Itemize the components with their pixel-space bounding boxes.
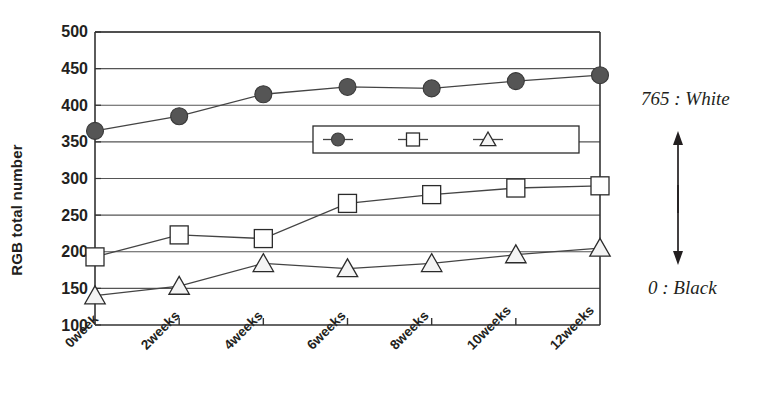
- data-point-marker: [169, 276, 189, 294]
- data-point-marker: [339, 194, 357, 212]
- data-point-marker: [423, 186, 441, 204]
- chart-figure: RGB total number 500 450 400 350 300 250…: [0, 0, 768, 413]
- data-point-marker: [170, 226, 188, 244]
- data-point-marker: [339, 78, 356, 95]
- up-arrow-head-icon: [673, 131, 683, 145]
- data-point-marker: [253, 254, 273, 272]
- legend-marker-open-square: [407, 133, 420, 146]
- data-point-marker: [255, 86, 272, 103]
- data-point-marker: [507, 179, 525, 197]
- data-point-marker: [423, 80, 440, 97]
- legend-marker-filled-circle: [332, 133, 345, 146]
- plot-area: [0, 0, 768, 413]
- data-point-marker: [254, 230, 272, 248]
- data-point-marker: [86, 248, 104, 266]
- data-point-marker: [590, 238, 610, 256]
- data-point-marker: [171, 108, 188, 125]
- gridlines: [95, 32, 600, 288]
- data-point-marker: [592, 67, 609, 84]
- x-axis-tick-marks: [179, 318, 516, 325]
- data-series: [85, 67, 610, 304]
- scale-arrows: [673, 131, 683, 265]
- data-point-marker: [87, 122, 104, 139]
- data-point-marker: [591, 177, 609, 195]
- legend-box: [313, 126, 579, 153]
- data-point-marker: [507, 73, 524, 90]
- down-arrow-head-icon: [673, 251, 683, 265]
